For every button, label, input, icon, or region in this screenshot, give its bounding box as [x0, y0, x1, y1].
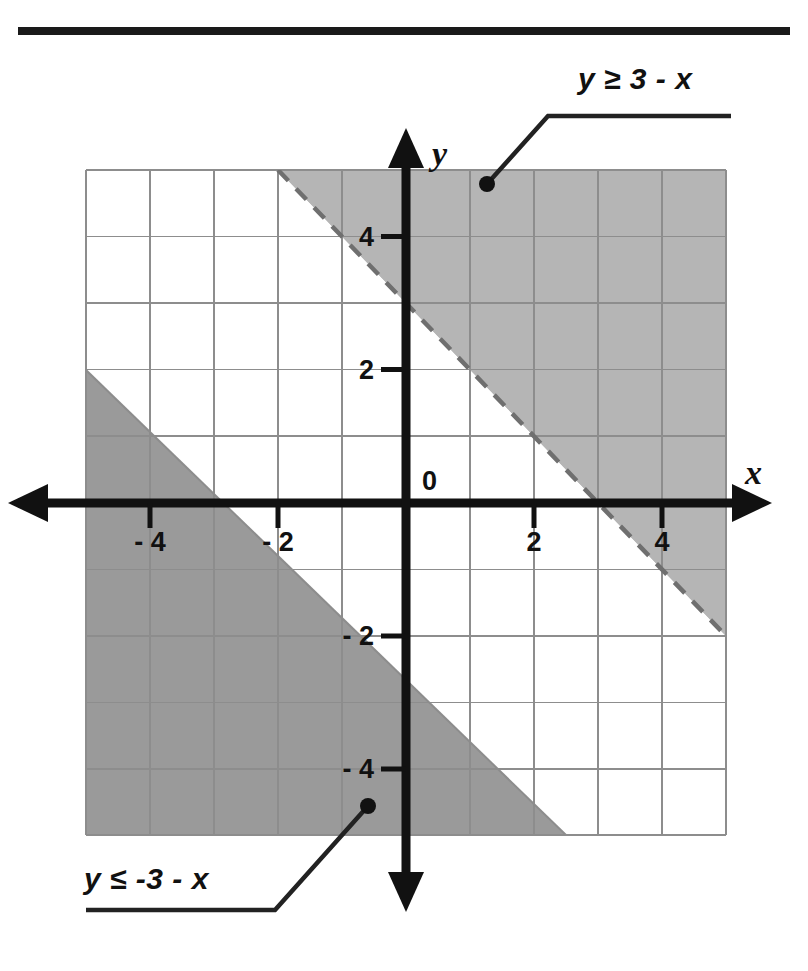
callout-label-lower-inequality: y ≤ -3 - x	[84, 862, 209, 896]
callout-anchor-dot-lower	[360, 798, 376, 814]
x-axis-left-arrowhead	[8, 484, 48, 522]
y-axis-label: y	[428, 135, 448, 172]
x-axis-label: x	[744, 454, 762, 491]
y-tick-label-4: 4	[359, 222, 374, 252]
inequality-graph-figure: - 4 - 2 2 4 4 2 - 2 - 4 0 y x y ≥	[0, 0, 808, 971]
x-tick-label--2: - 2	[262, 527, 294, 557]
y-tick-label--2: - 2	[342, 621, 374, 651]
coordinate-plane-svg: - 4 - 2 2 4 4 2 - 2 - 4 0 y x	[0, 0, 808, 971]
callout-anchor-dot-upper	[479, 176, 495, 192]
y-axis-bottom-arrowhead	[388, 872, 424, 912]
x-tick-label--4: - 4	[134, 527, 166, 557]
y-tick-label--4: - 4	[342, 754, 374, 784]
y-axis-top-arrowhead	[388, 128, 424, 168]
x-tick-label-4: 4	[654, 527, 669, 557]
x-tick-label-2: 2	[526, 527, 541, 557]
callout-label-upper-inequality: y ≥ 3 - x	[578, 62, 692, 96]
origin-label: 0	[422, 466, 437, 496]
page-root: - 4 - 2 2 4 4 2 - 2 - 4 0 y x y ≥	[0, 0, 808, 971]
y-tick-label-2: 2	[359, 355, 374, 385]
